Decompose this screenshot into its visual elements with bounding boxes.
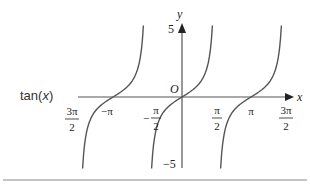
y-min-label: −5 bbox=[163, 157, 176, 171]
x-tick-neg-pi: −π bbox=[101, 105, 113, 117]
y-axis-arrow-icon bbox=[178, 23, 186, 33]
x-tick-3pi-2: 3π 2 bbox=[279, 104, 293, 132]
tick-numerator: π bbox=[153, 104, 159, 116]
x-tick-pi: π bbox=[248, 105, 254, 117]
tick-minus: − bbox=[143, 112, 149, 124]
y-max-label: 5 bbox=[168, 22, 174, 36]
origin-label: O bbox=[170, 82, 179, 96]
tick-denominator: 2 bbox=[283, 120, 289, 132]
tick-denominator: 2 bbox=[69, 121, 75, 133]
tick-denominator: 2 bbox=[214, 120, 220, 132]
y-axis-label: y bbox=[176, 7, 183, 21]
tan-graph: x y 5 −5 O 3π 2 −π − π 2 π 2 π 3π 2 bbox=[0, 0, 310, 187]
x-axis-arrow-icon bbox=[285, 93, 294, 101]
x-tick-pi-2: π 2 bbox=[212, 104, 222, 132]
tick-numerator: 3π bbox=[66, 105, 78, 117]
tick-denominator: 2 bbox=[153, 120, 159, 132]
x-axis-label: x bbox=[296, 90, 303, 104]
x-tick-neg-3pi-2: 3π 2 bbox=[65, 105, 79, 133]
tick-numerator: π bbox=[214, 104, 220, 116]
tick-numerator: 3π bbox=[280, 104, 292, 116]
x-tick-neg-pi-2: − π 2 bbox=[143, 104, 161, 132]
